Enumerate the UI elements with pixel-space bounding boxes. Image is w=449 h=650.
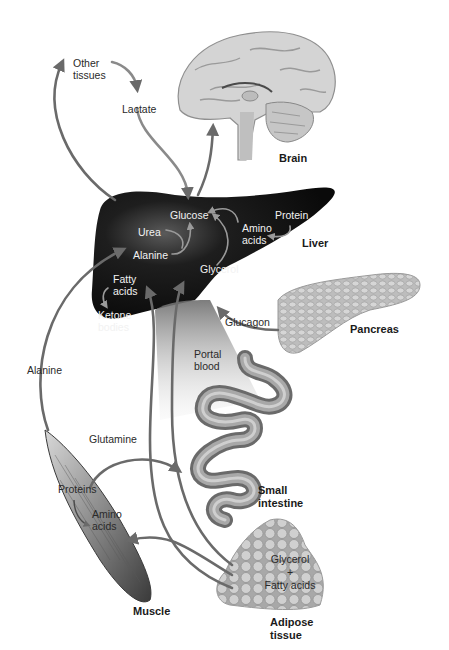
label-pancreas: Pancreas bbox=[350, 323, 399, 336]
label-amino-acids-liver: Aminoacids bbox=[242, 222, 272, 246]
label-ketone-bodies: Ketonebodies bbox=[98, 309, 131, 333]
arrow-other-tissues-to-lactate bbox=[112, 62, 137, 88]
label-adipose-tissue: Adiposetissue bbox=[270, 616, 313, 642]
label-fatty-acids-adipose: Fatty acids bbox=[252, 579, 328, 591]
label-amino-acids-muscle: Aminoacids bbox=[92, 508, 122, 532]
label-glucose: Glucose bbox=[170, 209, 209, 221]
label-glycerol-liver: Glycerol bbox=[200, 263, 239, 275]
brain-illustration bbox=[178, 32, 335, 160]
pancreas-illustration bbox=[278, 273, 420, 353]
label-alanine-liver: Alanine bbox=[133, 249, 168, 261]
label-plus: + bbox=[260, 566, 320, 578]
arrow-liver-to-brain bbox=[198, 128, 213, 195]
label-liver: Liver bbox=[302, 237, 328, 250]
arrow-liver-to-other-tissues bbox=[55, 63, 115, 200]
arrow-lactate-to-liver bbox=[137, 108, 188, 195]
label-glucagon: Glucagon bbox=[225, 316, 270, 328]
label-muscle: Muscle bbox=[133, 605, 170, 618]
label-portal-blood: Portalblood bbox=[194, 348, 221, 372]
label-urea: Urea bbox=[138, 226, 161, 238]
label-protein: Protein bbox=[275, 209, 308, 221]
label-small-intestine: Smallintestine bbox=[258, 484, 303, 510]
label-proteins-muscle: Proteins bbox=[58, 483, 97, 495]
label-brain: Brain bbox=[279, 152, 307, 165]
label-fatty-acids-liver: Fattyacids bbox=[113, 273, 138, 297]
label-glycerol-adipose: Glycerol bbox=[260, 553, 320, 565]
label-glutamine: Glutamine bbox=[89, 433, 137, 445]
label-lactate: Lactate bbox=[122, 103, 156, 115]
arrow-glutamine-to-intestine bbox=[90, 460, 178, 488]
label-alanine-left: Alanine bbox=[27, 364, 62, 376]
label-other-tissues: Othertissues bbox=[73, 57, 106, 81]
